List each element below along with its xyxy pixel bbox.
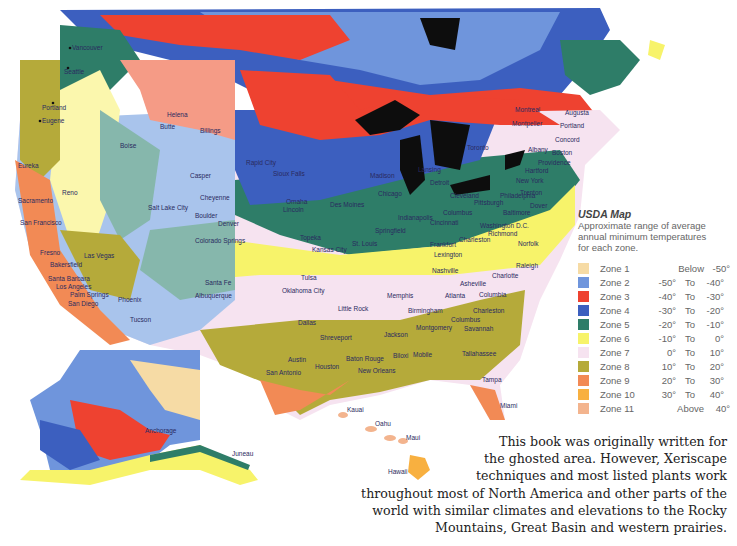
svg-text:Santa Barbara: Santa Barbara xyxy=(48,275,90,282)
svg-text:Dallas: Dallas xyxy=(298,319,317,326)
legend-desc-line: Approximate range of average xyxy=(578,220,706,231)
svg-text:Cleveland: Cleveland xyxy=(450,192,479,199)
zone-name: Zone 4 xyxy=(600,305,650,316)
svg-text:Austin: Austin xyxy=(288,356,306,363)
svg-text:Albuquerque: Albuquerque xyxy=(195,292,232,300)
zone-name: Zone 10 xyxy=(600,389,650,400)
zone-to: -30° xyxy=(704,291,724,302)
svg-text:Vancouver: Vancouver xyxy=(72,44,103,51)
zone-to: 30° xyxy=(704,375,724,386)
svg-text:Albany: Albany xyxy=(528,146,549,154)
svg-text:Raleigh: Raleigh xyxy=(516,262,538,270)
zone-from: -30° xyxy=(650,305,676,316)
svg-text:Tulsa: Tulsa xyxy=(301,274,317,281)
svg-text:Jackson: Jackson xyxy=(384,331,408,338)
alaska-inset xyxy=(20,350,258,485)
zone-from: 0° xyxy=(650,347,676,358)
zone-to-label: To xyxy=(676,319,704,330)
svg-text:Phoenix: Phoenix xyxy=(118,296,142,303)
zone-name: Zone 11 xyxy=(600,403,650,414)
zone-to: -20° xyxy=(704,305,724,316)
zone-to-label: To xyxy=(676,333,704,344)
zone-to-label: To xyxy=(676,347,704,358)
svg-text:Columbia: Columbia xyxy=(479,291,507,298)
svg-text:Los Angeles: Los Angeles xyxy=(56,283,92,291)
svg-text:Nashville: Nashville xyxy=(432,267,459,274)
zone-range-text: Below xyxy=(650,263,704,274)
zone-name: Zone 7 xyxy=(600,347,650,358)
svg-text:Columbus: Columbus xyxy=(443,209,473,216)
svg-text:Billings: Billings xyxy=(200,127,221,135)
legend-desc-line: for each zone. xyxy=(578,242,638,253)
legend-row-zone-4: Zone 4 -30° To -20° xyxy=(578,303,736,317)
svg-text:Eureka: Eureka xyxy=(18,162,39,169)
svg-text:Montreal: Montreal xyxy=(515,106,541,113)
zone-from: -40° xyxy=(650,291,676,302)
zone-from: 20° xyxy=(650,375,676,386)
svg-text:Augusta: Augusta xyxy=(565,109,589,117)
svg-text:Detroit: Detroit xyxy=(430,179,449,186)
svg-text:Des Moines: Des Moines xyxy=(330,201,365,208)
zone-11-swatch xyxy=(578,403,589,414)
zone-to-label: To xyxy=(676,375,704,386)
svg-text:Oahu: Oahu xyxy=(375,420,391,427)
svg-text:Richmond: Richmond xyxy=(488,230,518,237)
svg-text:Santa Fe: Santa Fe xyxy=(205,279,232,286)
svg-text:Reno: Reno xyxy=(62,189,78,196)
svg-text:Eugene: Eugene xyxy=(42,117,65,125)
svg-text:Fresno: Fresno xyxy=(40,249,61,256)
note-line: the ghosted area. However, Xeriscape xyxy=(297,450,727,467)
note-line: world with similar climates and elevatio… xyxy=(297,502,727,519)
legend-row-zone-5: Zone 5 -20° To -10° xyxy=(578,317,736,331)
svg-text:Topeka: Topeka xyxy=(300,234,321,242)
zone-to-label: To xyxy=(676,305,704,316)
svg-text:Boston: Boston xyxy=(552,149,573,156)
zone-3-swatch xyxy=(578,291,589,302)
note-line: throughout most of North America and oth… xyxy=(297,485,727,502)
legend-row-zone-10: Zone 10 30° To 40° xyxy=(578,387,736,401)
legend-row-zone-8: Zone 8 10° To 20° xyxy=(578,359,736,373)
legend-row-zone-3: Zone 3 -40° To -30° xyxy=(578,289,736,303)
zone-5-swatch xyxy=(578,319,589,330)
svg-text:Springfield: Springfield xyxy=(375,227,406,235)
zone-range-text: Above xyxy=(650,403,704,414)
svg-text:Cheyenne: Cheyenne xyxy=(200,194,230,202)
svg-text:Tallahassee: Tallahassee xyxy=(462,350,497,357)
zone-1-swatch xyxy=(578,263,589,274)
svg-text:Portland: Portland xyxy=(560,122,585,129)
svg-text:Savannah: Savannah xyxy=(464,325,494,332)
map-legend: USDA Map Approximate range of average an… xyxy=(578,208,736,415)
svg-text:Biloxi: Biloxi xyxy=(393,352,409,359)
svg-text:Helena: Helena xyxy=(167,111,188,118)
zone-name: Zone 1 xyxy=(600,263,650,274)
svg-text:Mobile: Mobile xyxy=(413,351,433,358)
svg-text:San Francisco: San Francisco xyxy=(20,219,62,226)
svg-text:Colorado Springs: Colorado Springs xyxy=(195,237,246,245)
zone-name: Zone 2 xyxy=(600,277,650,288)
note-line: techniques and most listed plants work xyxy=(297,467,727,484)
svg-text:Indianapolis: Indianapolis xyxy=(398,214,433,222)
svg-text:Sioux Falls: Sioux Falls xyxy=(273,170,306,177)
svg-text:Palm Springs: Palm Springs xyxy=(70,291,109,299)
zone-name: Zone 6 xyxy=(600,333,650,344)
zone-to-label: To xyxy=(676,361,704,372)
zone-2-swatch xyxy=(578,277,589,288)
svg-text:Concord: Concord xyxy=(555,136,580,143)
svg-text:Oklahoma City: Oklahoma City xyxy=(282,287,325,295)
svg-text:Miami: Miami xyxy=(500,402,517,409)
svg-text:Washington D.C.: Washington D.C. xyxy=(480,222,529,230)
legend-row-zone-11: Zone 11 Above 40° xyxy=(578,401,736,415)
svg-text:Casper: Casper xyxy=(190,172,212,180)
zone-name: Zone 9 xyxy=(600,375,650,386)
svg-text:St. Louis: St. Louis xyxy=(352,240,378,247)
zone-4-swatch xyxy=(578,305,589,316)
zone-7-swatch xyxy=(578,347,589,358)
svg-text:Hartford: Hartford xyxy=(525,167,549,174)
svg-text:Montgomery: Montgomery xyxy=(416,324,453,332)
svg-text:San Antonio: San Antonio xyxy=(266,369,301,376)
zone-to-label: To xyxy=(676,277,704,288)
zone-6-swatch xyxy=(578,333,589,344)
svg-text:Lansing: Lansing xyxy=(418,166,441,174)
svg-text:Baton Rouge: Baton Rouge xyxy=(346,355,384,363)
svg-text:Boise: Boise xyxy=(120,142,137,149)
